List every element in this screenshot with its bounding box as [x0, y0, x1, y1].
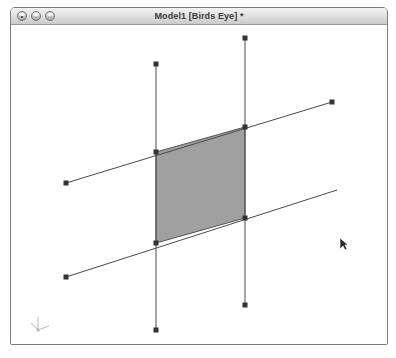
vertex-face-top-right[interactable] [243, 125, 248, 130]
shaded-quad-face[interactable] [156, 127, 245, 243]
handle-diagonal-lower-left[interactable] [64, 275, 69, 280]
handle-vertical-left-bottom[interactable] [154, 328, 159, 333]
vertex-face-bottom-right[interactable] [243, 216, 248, 221]
model-canvas[interactable] [11, 25, 387, 344]
window-titlebar[interactable]: Model1 [Birds Eye] * [11, 8, 387, 25]
handle-diagonal-upper-right[interactable] [330, 100, 335, 105]
handle-diagonal-upper-left[interactable] [64, 181, 69, 186]
handle-vertical-right-bottom[interactable] [243, 303, 248, 308]
vertex-face-bottom-left[interactable] [154, 241, 159, 246]
vertex-face-top-left[interactable] [154, 150, 159, 155]
app-root: Model1 [Birds Eye] * [0, 0, 396, 358]
handle-vertical-left-top[interactable] [154, 62, 159, 67]
handle-vertical-right-top[interactable] [243, 36, 248, 41]
window-title: Model1 [Birds Eye] * [11, 10, 387, 22]
geometry-viewport[interactable] [11, 25, 387, 344]
axis-gnomon [31, 317, 49, 332]
model-window: Model1 [Birds Eye] * [10, 7, 388, 345]
